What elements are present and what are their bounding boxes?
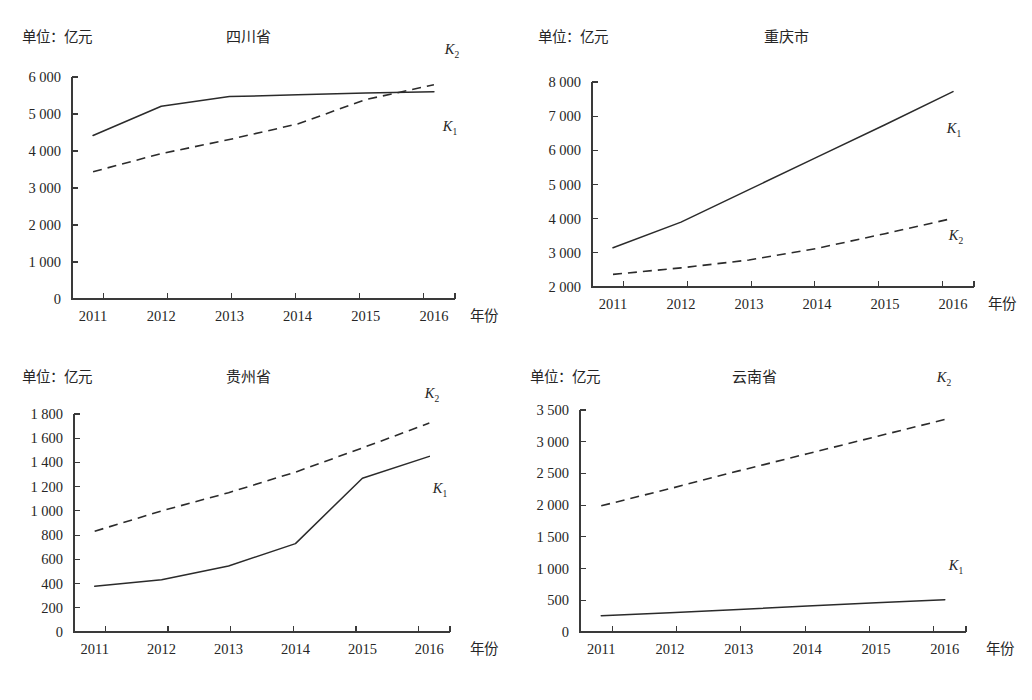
y-tick-label: 0 [56,624,63,640]
y-axis-unit-label: 单位：亿元 [22,29,92,45]
x-tick-label: 2015 [862,641,891,657]
x-tick-label: 2014 [802,296,832,312]
x-tick-label: 2011 [79,308,107,324]
y-tick-label: 3 000 [536,434,569,450]
series-label-k2: K2 [936,369,952,388]
x-tick-label: 2013 [214,641,243,657]
y-tick-label: 600 [41,551,63,567]
x-tick-label: 2015 [351,308,380,324]
y-tick-label: 500 [547,592,569,608]
y-tick-label: 2 500 [536,465,569,481]
y-tick-label: 6 000 [548,142,581,158]
chart-panel-yunnan: 单位：亿元云南省05001 0001 5002 0002 5003 0003 5… [516,350,1032,700]
chart-panel-sichuan: 单位：亿元四川省01 0002 0003 0004 0005 0006 0002… [0,0,516,350]
y-tick-label: 6 000 [28,69,61,85]
x-tick-label: 2011 [587,641,615,657]
y-tick-label: 3 000 [28,180,61,196]
series-label-subscript: 2 [946,378,951,388]
x-tick-label: 2016 [415,641,444,657]
series-label-k1: K1 [948,557,964,576]
x-tick-label: 2015 [870,296,899,312]
y-axis-unit-label: 单位：亿元 [22,369,92,385]
series-label-subscript: 1 [452,127,457,137]
y-tick-label: 200 [41,600,63,616]
x-axis-title: 年份 [988,296,1017,312]
chart-figure-grid: 单位：亿元四川省01 0002 0003 0004 0005 0006 0002… [0,0,1032,700]
chart-title: 重庆市 [764,29,809,45]
y-tick-label: 3 500 [536,402,569,418]
chart-svg-yunnan: 单位：亿元云南省05001 0001 5002 0002 5003 0003 5… [516,350,1032,700]
x-tick-label: 2011 [80,641,108,657]
chart-svg-guizhou: 单位：亿元贵州省02004006008001 0001 2001 4001 60… [0,350,516,700]
y-axis-unit-label: 单位：亿元 [530,369,600,385]
chart-svg-chongqing: 单位：亿元重庆市2 0003 0004 0005 0006 0007 0008 … [516,0,1032,350]
y-tick-label: 1 000 [30,503,63,519]
x-axis-title: 年份 [470,308,499,324]
series-label-k2: K2 [948,227,964,246]
chart-title: 贵州省 [226,369,271,385]
y-tick-label: 0 [562,624,569,640]
series-label-subscript: 2 [454,50,459,60]
x-tick-label: 2012 [147,308,176,324]
y-tick-label: 2 000 [536,497,569,513]
x-axis-title: 年份 [470,641,499,657]
series-line-k2 [93,85,434,172]
y-tick-label: 5 000 [548,177,581,193]
series-line-k1 [93,92,434,136]
chart-title: 云南省 [732,369,777,385]
y-tick-label: 7 000 [548,108,581,124]
y-tick-label: 1 000 [536,561,569,577]
y-tick-label: 1 000 [28,254,61,270]
y-tick-label: 1 800 [30,406,63,422]
series-line-k1 [95,456,430,586]
x-tick-label: 2012 [655,641,684,657]
x-tick-label: 2012 [147,641,176,657]
chart-svg-sichuan: 单位：亿元四川省01 0002 0003 0004 0005 0006 0002… [0,0,516,350]
series-line-k2 [95,423,430,531]
chart-axes [592,82,974,287]
y-tick-label: 800 [41,527,63,543]
series-label-k2: K2 [424,385,440,404]
series-line-k1 [601,600,945,616]
series-label-subscript: 1 [956,129,961,139]
series-line-k2 [601,420,945,506]
series-label-subscript: 1 [442,489,447,499]
y-tick-label: 1 200 [30,479,63,495]
chart-panel-chongqing: 单位：亿元重庆市2 0003 0004 0005 0006 0007 0008 … [516,0,1032,350]
series-label-k2: K2 [444,41,460,60]
y-tick-label: 1 500 [536,529,569,545]
x-tick-label: 2016 [930,641,959,657]
y-tick-label: 4 000 [28,143,61,159]
y-tick-label: 5 000 [28,106,61,122]
chart-axes [72,77,455,299]
x-tick-label: 2014 [283,308,313,324]
series-label-subscript: 2 [958,236,963,246]
x-tick-label: 2016 [419,308,448,324]
series-label-subscript: 1 [958,566,963,576]
x-axis-title: 年份 [986,641,1015,657]
x-tick-label: 2014 [793,641,823,657]
chart-axes [74,414,450,632]
y-tick-label: 1 400 [30,454,63,470]
series-line-k2 [613,218,953,274]
y-tick-label: 2 000 [28,217,61,233]
chart-panel-guizhou: 单位：亿元贵州省02004006008001 0001 2001 4001 60… [0,350,516,700]
x-tick-label: 2016 [938,296,967,312]
series-label-k1: K1 [442,118,458,137]
series-line-k1 [613,92,953,248]
chart-title: 四川省 [226,29,271,45]
x-tick-label: 2013 [735,296,764,312]
y-tick-label: 2 000 [548,279,581,295]
y-tick-label: 3 000 [548,245,581,261]
y-tick-label: 1 600 [30,430,63,446]
y-tick-label: 8 000 [548,74,581,90]
series-label-subscript: 2 [434,394,439,404]
chart-axes [580,410,966,632]
x-tick-label: 2012 [667,296,696,312]
x-tick-label: 2011 [599,296,627,312]
y-tick-label: 4 000 [548,211,581,227]
x-tick-label: 2013 [724,641,753,657]
y-tick-label: 0 [54,291,61,307]
y-axis-unit-label: 单位：亿元 [538,29,608,45]
y-tick-label: 400 [41,576,63,592]
